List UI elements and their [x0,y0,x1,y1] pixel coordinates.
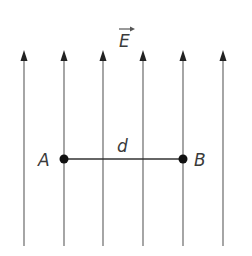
point-b [179,155,188,164]
vector-arrowhead-icon [130,27,135,32]
electric-field-diagram: E A B d [0,0,252,256]
arrow-up-icon [220,50,227,61]
distance-label: d [117,136,128,156]
arrow-up-icon [140,50,147,61]
point-b-label: B [194,150,206,170]
point-a-label: A [37,150,50,170]
arrowheads [21,50,227,61]
field-label: E [119,31,130,51]
arrow-up-icon [21,50,28,61]
arrow-up-icon [180,50,187,61]
arrow-up-icon [100,50,107,61]
field-label-group: E [119,27,135,52]
arrow-up-icon [61,50,68,61]
point-a [60,155,69,164]
